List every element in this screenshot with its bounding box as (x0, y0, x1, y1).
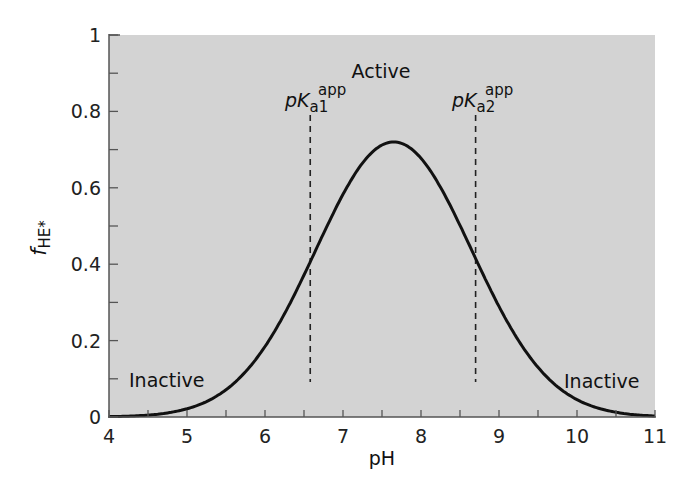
x-tick-label: 7 (337, 425, 349, 447)
active-label: Active (352, 60, 411, 82)
x-tick-label: 10 (565, 425, 589, 447)
y-tick-label: 0.4 (71, 253, 101, 275)
x-tick-label: 8 (415, 425, 427, 447)
pka1-sup: app (318, 81, 346, 99)
svg-text:fHE*: fHE* (27, 220, 54, 256)
y-tick-label: 0.6 (71, 177, 101, 199)
x-tick-label: 9 (493, 425, 505, 447)
x-tick-label: 4 (103, 425, 115, 447)
y-tick-label: 1 (89, 24, 101, 46)
y-tick-label: 0.8 (71, 100, 101, 122)
chart: 4567891011 00.20.40.60.81 Active Inactiv… (0, 0, 696, 494)
y-axis-label: fHE* (27, 220, 54, 256)
plot-area (109, 35, 655, 417)
inactive-left-label: Inactive (129, 369, 204, 391)
x-tick-label: 5 (181, 425, 193, 447)
x-tick-label: 6 (259, 425, 271, 447)
x-tick-label: 11 (643, 425, 667, 447)
y-tick-label: 0 (89, 406, 101, 428)
x-axis-label: pH (369, 447, 395, 469)
inactive-right-label: Inactive (564, 370, 639, 392)
y-tick-label: 0.2 (71, 330, 101, 352)
pka2-sup: app (485, 81, 513, 99)
